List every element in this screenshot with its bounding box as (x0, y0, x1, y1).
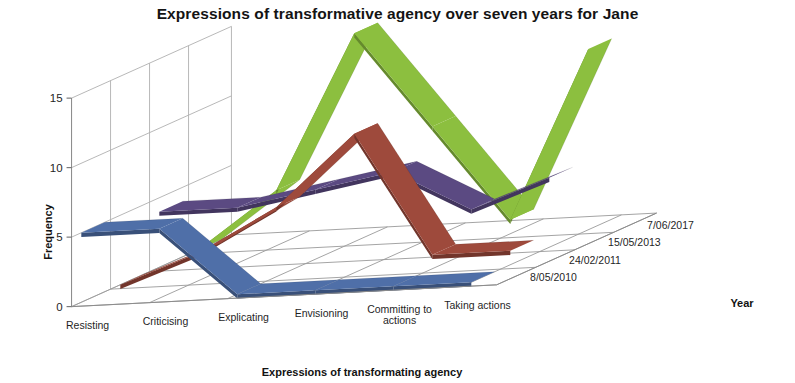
x-category-label-wrap: actions (383, 314, 416, 326)
x-axis-title: Expressions of transformating agency (262, 366, 463, 378)
y-tick-label: 10 (50, 162, 63, 174)
x-category-label: Taking actions (444, 299, 511, 311)
x-category-label: Criticising (143, 315, 189, 327)
x-category-label: Envisioning (295, 307, 349, 319)
x-category-label: Resisting (66, 319, 109, 331)
x-category-label: Explicating (218, 311, 269, 323)
chart-plot-area: 051015ResistingCriticisingExplicatingEnv… (0, 0, 795, 383)
z-series-label: 24/02/2011 (569, 254, 621, 266)
chart-axis-labels: 051015ResistingCriticisingExplicatingEnv… (42, 92, 754, 378)
z-series-label: 7/06/2017 (647, 219, 694, 231)
y-tick-label: 5 (56, 231, 62, 243)
y-axis-title: Frequency (42, 203, 54, 260)
y-tick-label: 0 (56, 301, 62, 313)
chart-series-ribbons (81, 23, 611, 299)
z-series-label: 15/05/2013 (608, 236, 661, 248)
z-axis-title: Year (730, 297, 754, 309)
chart-page: Expressions of transformative agency ove… (0, 0, 795, 383)
z-series-label: 8/05/2010 (530, 271, 577, 283)
y-tick-label: 15 (50, 92, 63, 104)
